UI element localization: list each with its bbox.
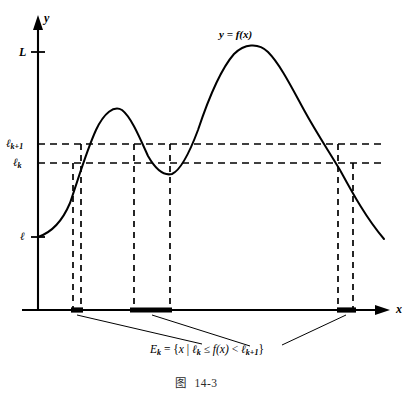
caption-number: 14-3 [195,377,218,389]
formula-hi-subscript: k+1 [246,348,259,357]
function-curve [38,45,384,239]
y-tick-label-ell: ℓ [20,231,25,242]
figure-container: y x L ℓk+1 ℓk ℓ y = f(x) Ek = {x | ℓk ≤ … [0,0,416,402]
leader-line-3 [282,315,346,345]
y-tick-label-ell-k: ℓk [13,157,22,170]
y-axis-label: y [44,12,49,24]
formula-close-brace: } [258,343,264,355]
x-axis-label: x [396,303,402,315]
formula-le-operator: ≤ [201,343,213,355]
ell-subscript: k [18,161,22,170]
y-axis-arrow-icon [33,15,43,30]
figure-caption: 图14-3 [175,378,218,390]
y-tick-label-L: L [19,46,26,58]
formula-fx: f(x) [213,343,229,355]
formula-eq: = { [161,343,179,355]
caption-cn-word: 图 [175,376,187,390]
set-formula: Ek = {x | ℓk ≤ f(x) < ℓk+1} [150,344,264,357]
formula-bar: | [184,343,192,355]
curve-label: y = f(x) [219,29,252,40]
leader-line-2 [152,315,250,346]
leader-line-1 [77,315,202,344]
formula-lt-operator: < [229,343,241,355]
x-axis-arrow-icon [375,305,390,315]
formula-lhs: E [150,343,157,355]
figure-canvas [0,0,416,402]
y-tick-label-ell-k-plus-1: ℓk+1 [6,138,23,151]
ell-subscript: k+1 [11,142,24,151]
